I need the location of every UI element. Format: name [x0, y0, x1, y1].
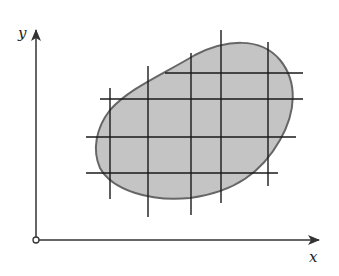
- shaded-region: [96, 43, 293, 199]
- origin-point: [33, 237, 39, 243]
- y-axis-label: y: [17, 24, 27, 42]
- region-grid-diagram: x y: [0, 0, 339, 276]
- x-axis-label: x: [309, 248, 318, 266]
